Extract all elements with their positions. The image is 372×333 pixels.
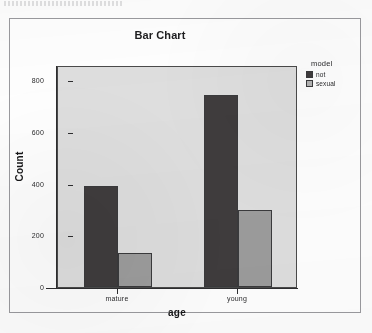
scan-artifact-line — [4, 1, 122, 6]
chart-title: Bar Chart — [10, 29, 310, 41]
x-axis-title: age — [57, 307, 297, 318]
bar-young-not — [204, 95, 238, 287]
y-tick-0 — [68, 288, 73, 289]
y-tick-label-800: 800 — [10, 77, 44, 84]
legend-label-sexual: sexual — [316, 80, 335, 87]
x-tick-label-mature: mature — [82, 295, 152, 302]
x-axis-line — [46, 288, 298, 289]
y-axis-line — [56, 66, 57, 289]
plot-area — [57, 66, 297, 288]
legend-label-not: not — [316, 71, 325, 78]
x-tick-label-young: young — [202, 295, 272, 302]
legend-entry-not: not — [306, 71, 360, 78]
y-axis-title: Count — [14, 122, 25, 212]
bar-mature-sexual — [118, 253, 152, 287]
legend-entries: notsexual — [306, 71, 360, 87]
bar-mature-not — [84, 186, 118, 287]
legend-title: model — [311, 59, 360, 68]
y-tick-label-200: 200 — [10, 232, 44, 239]
x-tick-mature — [117, 289, 118, 294]
legend-entry-sexual: sexual — [306, 80, 360, 87]
x-tick-young — [237, 289, 238, 294]
y-tick-label-0: 0 — [10, 284, 44, 291]
chart-figure-frame: Bar Chart 0200400600800 matureyoung Coun… — [9, 18, 361, 313]
legend-swatch-sexual — [306, 80, 313, 87]
y-tick-200 — [68, 236, 73, 237]
plot-bars-container — [58, 67, 296, 287]
y-tick-600 — [68, 133, 73, 134]
bar-young-sexual — [238, 210, 272, 287]
y-tick-800 — [68, 81, 73, 82]
y-tick-400 — [68, 185, 73, 186]
legend-swatch-not — [306, 71, 313, 78]
chart-legend: model notsexual — [306, 59, 360, 89]
